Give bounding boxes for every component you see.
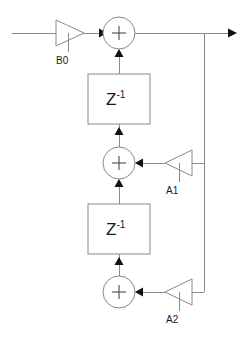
signal-flow-diagram: B0 Z-1 A1: [0, 0, 248, 341]
gain-label-a2: A2: [166, 314, 179, 325]
arrowhead-into-delay2: [115, 257, 124, 265]
arrowhead-into-delay1: [115, 127, 124, 135]
gain-label-a1: A1: [166, 185, 179, 196]
arrowhead-into-bottom-summer-right: [135, 288, 143, 297]
arrowhead-into-top-summer-bottom: [115, 49, 124, 57]
gain-block-b0[interactable]: [56, 20, 84, 46]
gain-label-b0: B0: [56, 55, 69, 66]
arrowhead-into-middle-summer-bottom: [115, 179, 124, 187]
delay-block-2-base: Z: [106, 220, 116, 239]
delay-block-1-exponent: -1: [116, 89, 125, 100]
delay-block-1-base: Z: [106, 90, 116, 109]
delay-block-2-exponent: -1: [116, 219, 125, 230]
block-diagram-canvas: B0 Z-1 A1: [0, 0, 248, 341]
arrowhead-into-middle-summer-right: [135, 159, 143, 168]
arrowhead-output: [228, 29, 237, 38]
